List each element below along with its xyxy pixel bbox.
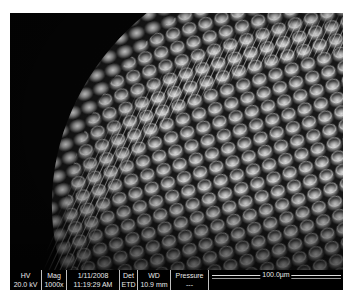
image-shading <box>10 13 343 270</box>
mag-label: Mag <box>47 271 61 280</box>
pressure-field: Pressure --- <box>171 270 209 290</box>
pressure-value: --- <box>186 280 193 289</box>
hv-value: 20.0 kV <box>14 280 38 289</box>
scale-bar: 100.0µm <box>209 270 343 290</box>
sem-image-frame: HV 20.0 kV Mag 1000x 1/11/2008 11:19:29 … <box>10 13 343 290</box>
pressure-label: Pressure <box>175 271 203 280</box>
det-label: Det <box>123 271 134 280</box>
mag-value: 1000x <box>44 280 63 289</box>
sem-micrograph <box>10 13 343 270</box>
det-field: Det ETD <box>120 270 138 290</box>
wd-label: WD <box>148 271 160 280</box>
hv-label: HV <box>21 271 31 280</box>
wd-value: 10.9 mm <box>140 280 167 289</box>
hv-field: HV 20.0 kV <box>10 270 42 290</box>
scale-bar-label: 100.0µm <box>260 270 291 279</box>
det-value: ETD <box>122 280 136 289</box>
time-value: 11:19:29 AM <box>74 280 113 289</box>
date-value: 1/11/2008 <box>78 271 109 280</box>
wd-field: WD 10.9 mm <box>138 270 171 290</box>
mag-field: Mag 1000x <box>42 270 67 290</box>
sem-data-bar: HV 20.0 kV Mag 1000x 1/11/2008 11:19:29 … <box>10 270 343 290</box>
date-field: 1/11/2008 11:19:29 AM <box>67 270 120 290</box>
